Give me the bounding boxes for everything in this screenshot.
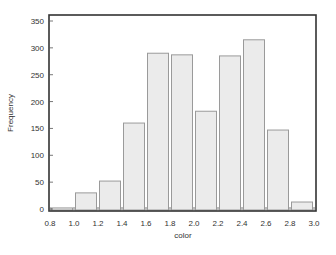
histogram-chart: 050100150200250300350 0.81.01.21.41.61.8… (0, 0, 336, 255)
x-tick-label: 2.0 (188, 219, 200, 228)
y-axis-label: Frequency (6, 94, 15, 132)
x-axis-label: color (174, 231, 192, 240)
histogram-bar (220, 56, 241, 210)
histogram-bar (52, 208, 73, 210)
x-tick-label: 2.6 (260, 219, 272, 228)
histogram-bar (76, 193, 97, 210)
x-tick-label: 2.2 (212, 219, 224, 228)
y-tick-label: 350 (31, 17, 45, 26)
y-tick-label: 50 (35, 178, 44, 187)
histogram-bar (292, 202, 313, 210)
x-tick-label: 1.4 (116, 219, 128, 228)
histogram-bar (148, 53, 169, 210)
histogram-bar (100, 181, 121, 210)
histogram-bars (52, 40, 313, 210)
x-tick-label: 1.6 (140, 219, 152, 228)
x-tick-label: 1.8 (164, 219, 176, 228)
x-tick-label: 1.0 (68, 219, 80, 228)
histogram-bar (196, 111, 217, 210)
x-tick-label: 0.8 (44, 219, 56, 228)
x-tick-label: 2.8 (284, 219, 296, 228)
histogram-bar (268, 130, 289, 210)
y-tick-label: 200 (31, 98, 45, 107)
histogram-bar (124, 123, 145, 210)
histogram-bar (172, 55, 193, 210)
y-tick-label: 150 (31, 124, 45, 133)
x-tick-label: 3.0 (308, 219, 320, 228)
y-tick-label: 100 (31, 151, 45, 160)
y-tick-label: 300 (31, 44, 45, 53)
histogram-bar (244, 40, 265, 210)
x-tick-label: 2.4 (236, 219, 248, 228)
y-tick-label: 0 (40, 205, 45, 214)
y-tick-label: 250 (31, 71, 45, 80)
x-tick-label: 1.2 (92, 219, 104, 228)
